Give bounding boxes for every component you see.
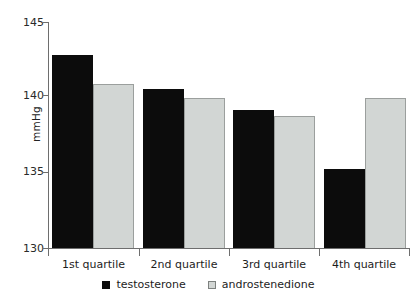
y-tick-label-140: 140 bbox=[14, 90, 44, 101]
bar-testosterone-1st-quartile bbox=[52, 55, 93, 249]
chart-legend: testosterone androstenedione bbox=[0, 278, 417, 291]
y-axis-tick-labels: 145 140 135 130 bbox=[14, 0, 44, 301]
bar-androstenedione-1st-quartile bbox=[93, 84, 134, 249]
legend-item-testosterone: testosterone bbox=[102, 278, 185, 291]
x-category-label-2nd-quartile: 2nd quartile bbox=[139, 258, 229, 271]
bar-chart-figure: mmHg 145 140 135 130 1st quartile 2nd qu… bbox=[0, 0, 417, 301]
bar-androstenedione-2nd-quartile bbox=[184, 98, 225, 249]
bar-testosterone-2nd-quartile bbox=[143, 89, 184, 249]
x-tick-mark-4 bbox=[409, 249, 410, 256]
y-tick-label-135: 135 bbox=[14, 166, 44, 177]
legend-label-testosterone: testosterone bbox=[116, 278, 185, 291]
plot-area bbox=[48, 22, 410, 249]
legend-swatch-testosterone-icon bbox=[102, 281, 110, 289]
x-tick-mark-3 bbox=[319, 249, 320, 256]
bar-androstenedione-3rd-quartile bbox=[274, 116, 315, 249]
y-tick-label-145: 145 bbox=[14, 17, 44, 28]
x-tick-mark-0 bbox=[48, 249, 49, 256]
x-tick-mark-2 bbox=[229, 249, 230, 256]
x-category-label-3rd-quartile: 3rd quartile bbox=[229, 258, 319, 271]
bar-testosterone-3rd-quartile bbox=[233, 110, 274, 249]
x-tick-mark-1 bbox=[139, 249, 140, 256]
legend-item-androstenedione: androstenedione bbox=[208, 278, 315, 291]
bar-testosterone-4th-quartile bbox=[324, 169, 365, 249]
legend-label-androstenedione: androstenedione bbox=[222, 278, 315, 291]
x-category-label-1st-quartile: 1st quartile bbox=[48, 258, 139, 271]
x-category-label-4th-quartile: 4th quartile bbox=[319, 258, 409, 271]
y-tick-label-130: 130 bbox=[14, 243, 44, 254]
bar-androstenedione-4th-quartile bbox=[365, 98, 406, 249]
legend-swatch-androstenedione-icon bbox=[208, 281, 216, 289]
